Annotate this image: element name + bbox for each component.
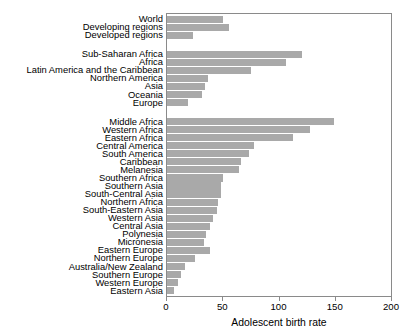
bar bbox=[167, 24, 229, 31]
bar bbox=[167, 174, 223, 181]
bar bbox=[167, 287, 174, 294]
bar-row-label: Europe bbox=[0, 97, 163, 108]
bar bbox=[167, 239, 204, 246]
bar bbox=[167, 16, 223, 23]
bar bbox=[167, 271, 181, 278]
x-axis: 050100150200 bbox=[0, 297, 410, 303]
bar bbox=[167, 231, 206, 238]
bar bbox=[167, 255, 195, 262]
x-axis-tick-label: 200 bbox=[383, 301, 399, 312]
x-axis-tick-label: 50 bbox=[217, 301, 228, 312]
bar bbox=[167, 223, 210, 230]
bar bbox=[167, 75, 208, 82]
bar-row-label: Eastern Asia bbox=[0, 285, 163, 296]
bar bbox=[167, 190, 221, 197]
bar bbox=[167, 51, 302, 58]
bar-row: Eastern Asia bbox=[0, 287, 410, 294]
adolescent-birth-rate-chart: WorldDeveloping regionsDeveloped regions… bbox=[0, 0, 410, 336]
bar bbox=[167, 207, 217, 214]
x-axis-title: Adolescent birth rate bbox=[166, 317, 392, 328]
bar bbox=[167, 126, 310, 133]
bar bbox=[167, 83, 205, 90]
x-axis-tick-label: 100 bbox=[270, 301, 286, 312]
bar bbox=[167, 59, 286, 66]
bar-row-label: Developed regions bbox=[0, 29, 163, 40]
x-axis-tick-label: 0 bbox=[163, 301, 168, 312]
bar-row: Europe bbox=[0, 99, 410, 106]
bar bbox=[167, 247, 210, 254]
bar bbox=[167, 182, 221, 189]
bar bbox=[167, 134, 293, 141]
bar bbox=[167, 158, 241, 165]
bar bbox=[167, 263, 185, 270]
bar bbox=[167, 279, 178, 286]
bar bbox=[167, 99, 188, 106]
bar bbox=[167, 142, 254, 149]
bar bbox=[167, 199, 218, 206]
x-axis-tick-label: 150 bbox=[327, 301, 343, 312]
bar-rows-container: WorldDeveloping regionsDeveloped regions… bbox=[0, 13, 410, 297]
bar bbox=[167, 166, 239, 173]
bar bbox=[167, 67, 251, 74]
bar bbox=[167, 215, 213, 222]
bar bbox=[167, 91, 202, 98]
bar bbox=[167, 118, 334, 125]
bar-row: Developed regions bbox=[0, 32, 410, 39]
bar bbox=[167, 32, 193, 39]
bar bbox=[167, 150, 249, 157]
